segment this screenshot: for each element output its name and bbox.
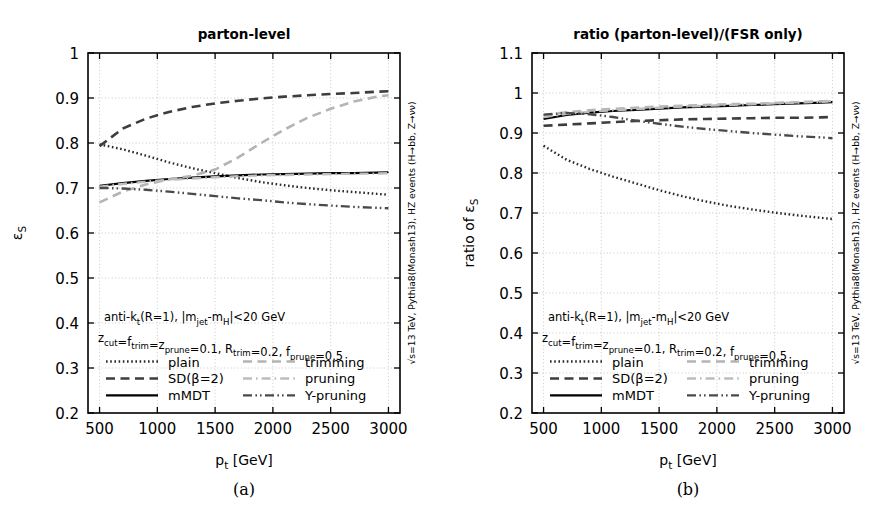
legend-label-trimming: trimming [305, 355, 364, 370]
x-tick-label: 2000 [698, 420, 736, 438]
y-tick-label: 0.7 [55, 180, 79, 198]
annotation-cuts-line1: anti-kt(R=1), |mjet-mH|<20 GeV [548, 310, 729, 327]
legend-label-plain: plain [168, 355, 200, 370]
y-tick-label: 0.3 [499, 365, 523, 383]
y-tick-label: 0.6 [55, 225, 79, 243]
panel-caption: (a) [233, 480, 255, 499]
y-tick-label: 0.4 [55, 315, 79, 333]
legend-label-pruning: pruning [749, 371, 799, 386]
legend-label-mmdt: mMDT [168, 388, 210, 403]
y-tick-label: 0.5 [55, 270, 79, 288]
y-tick-label: 0.3 [55, 360, 79, 378]
figure-panel-a: parton-level500100015002000250030000.20.… [0, 0, 443, 519]
y-tick-label: 0.4 [499, 325, 523, 343]
series-line-plain [544, 146, 833, 219]
legend-label-pruning: pruning [305, 371, 355, 386]
y-tick-label: 0.9 [55, 90, 79, 108]
x-tick-label: 2000 [254, 420, 292, 438]
side-note: √s=13 TeV, Pythia8(Monash13), HZ events … [406, 101, 417, 364]
legend-label-ypruning: Y-pruning [304, 388, 366, 403]
series-line-ypruning [100, 188, 389, 208]
figure-panel-b: ratio (parton-level)/(FSR only)500100015… [444, 0, 887, 519]
x-axis-label: pt [GeV] [659, 452, 716, 471]
y-axis-label: ratio of εS [461, 198, 480, 267]
svg-text:εS: εS [9, 226, 28, 241]
legend-label-plain: plain [612, 355, 644, 370]
legend-label-sd2: SD(β=2) [612, 371, 668, 386]
x-tick-label: 500 [85, 420, 114, 438]
x-tick-label: 1000 [138, 420, 176, 438]
series-line-plain [100, 144, 389, 194]
y-tick-label: 0.9 [499, 125, 523, 143]
x-tick-label: 3000 [369, 420, 407, 438]
x-tick-label: 3000 [813, 420, 851, 438]
x-tick-label: 1000 [582, 420, 620, 438]
legend-label-mmdt: mMDT [612, 388, 654, 403]
x-tick-label: 500 [529, 420, 558, 438]
panel-caption: (b) [677, 480, 700, 499]
y-tick-label: 1 [69, 45, 79, 63]
y-tick-label: 0.2 [499, 405, 523, 423]
y-tick-label: 0.8 [499, 165, 523, 183]
y-tick-label: 0.7 [499, 205, 523, 223]
side-note: √s=13 TeV, Pythia8(Monash13), HZ events … [850, 101, 861, 364]
x-tick-label: 1500 [640, 420, 678, 438]
series-line-pruning [544, 101, 833, 117]
series-line-sd2 [100, 91, 389, 146]
y-tick-label: 0.2 [55, 405, 79, 423]
panel-title: ratio (parton-level)/(FSR only) [573, 26, 803, 42]
x-axis-label: pt [GeV] [215, 452, 272, 471]
annotation-cuts-line1: anti-kt(R=1), |mjet-mH|<20 GeV [104, 310, 285, 327]
y-tick-label: 0.5 [499, 285, 523, 303]
y-tick-label: 1.1 [499, 45, 523, 63]
legend-label-sd2: SD(β=2) [168, 371, 224, 386]
x-tick-label: 1500 [196, 420, 234, 438]
series-line-sd2 [544, 117, 833, 126]
x-tick-label: 2500 [756, 420, 794, 438]
series-line-trimming [100, 95, 389, 202]
y-tick-label: 1 [513, 85, 523, 103]
x-tick-label: 2500 [312, 420, 350, 438]
series-line-ypruning [544, 113, 833, 138]
y-axis-label: εS [9, 226, 28, 241]
legend-label-ypruning: Y-pruning [748, 388, 810, 403]
y-tick-label: 0.6 [499, 245, 523, 263]
panel-title: parton-level [198, 26, 291, 42]
svg-text:ratio of εS: ratio of εS [461, 198, 480, 267]
legend-label-trimming: trimming [749, 355, 808, 370]
y-tick-label: 0.8 [55, 135, 79, 153]
